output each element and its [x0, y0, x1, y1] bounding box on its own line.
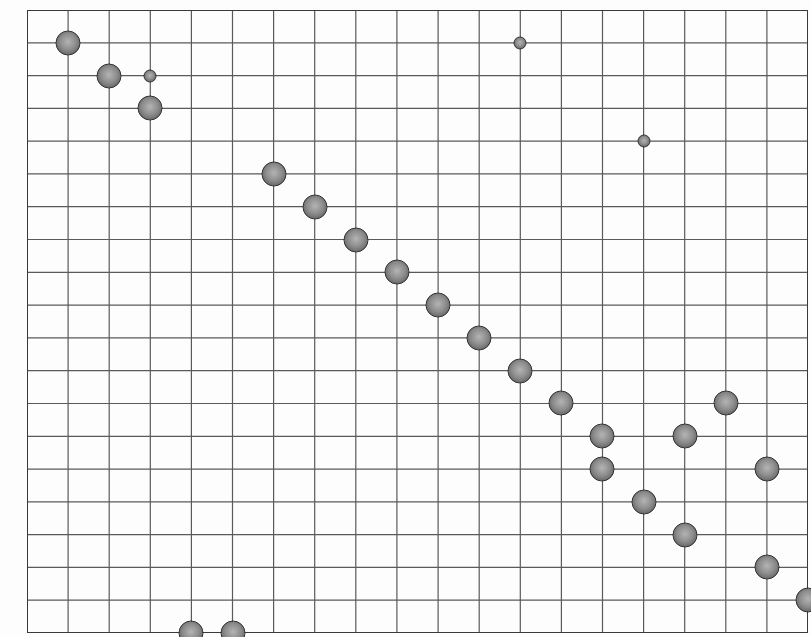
small-stone[interactable]	[637, 135, 650, 148]
stone[interactable]	[56, 30, 81, 55]
stone[interactable]	[508, 358, 533, 383]
stone[interactable]	[672, 522, 697, 547]
stone[interactable]	[97, 63, 122, 88]
stone[interactable]	[138, 96, 163, 121]
game-canvas	[0, 0, 811, 637]
stone[interactable]	[590, 424, 615, 449]
stone[interactable]	[220, 621, 245, 637]
stones-layer	[0, 0, 811, 637]
stone[interactable]	[467, 325, 492, 350]
stone[interactable]	[754, 457, 779, 482]
stone[interactable]	[261, 161, 286, 186]
small-stone[interactable]	[514, 36, 527, 49]
stone[interactable]	[384, 260, 409, 285]
stone[interactable]	[590, 457, 615, 482]
small-stone[interactable]	[144, 69, 157, 82]
stone[interactable]	[302, 194, 327, 219]
stone[interactable]	[343, 227, 368, 252]
stone[interactable]	[179, 621, 204, 637]
stone[interactable]	[631, 489, 656, 514]
stone[interactable]	[672, 424, 697, 449]
stone[interactable]	[426, 293, 451, 318]
stone[interactable]	[549, 391, 574, 416]
stone[interactable]	[713, 391, 738, 416]
stone[interactable]	[796, 588, 811, 613]
stone[interactable]	[754, 555, 779, 580]
